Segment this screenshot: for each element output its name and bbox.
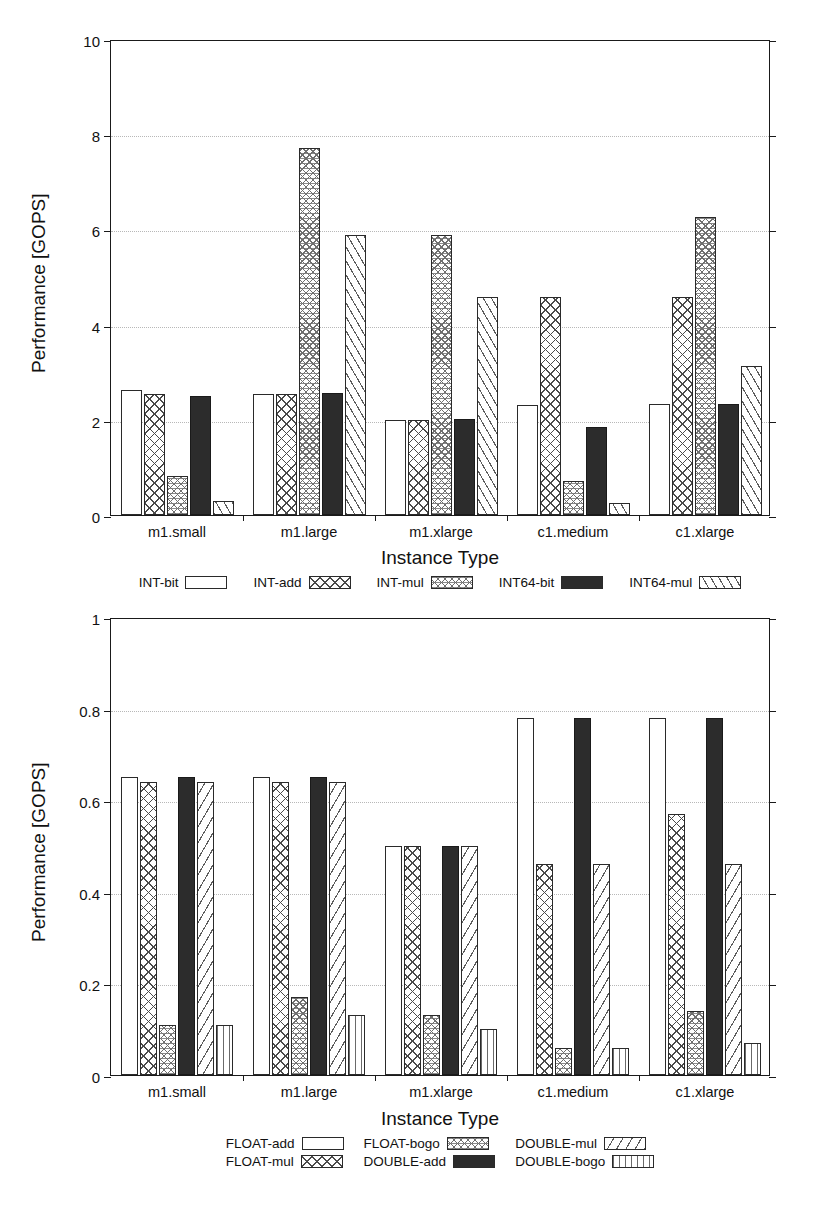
bar [706, 718, 723, 1075]
legend-label: DOUBLE-add [364, 1154, 447, 1169]
legend-swatch [431, 576, 473, 589]
y-axis-tick [769, 327, 776, 328]
legend-label: FLOAT-add [226, 1136, 295, 1151]
bar [213, 501, 234, 515]
legend-item-double-add[interactable]: DOUBLE-add [364, 1154, 496, 1169]
y-axis-tick-label: 0.6 [79, 794, 100, 811]
legend-item-double-bogo[interactable]: DOUBLE-bogo [515, 1154, 654, 1169]
legend-grid: FLOAT-addFLOAT-bogoDOUBLE-mulFLOAT-mulDO… [226, 1136, 654, 1169]
legend-item-float-bogo[interactable]: FLOAT-bogo [364, 1136, 496, 1151]
x-axis-tick [375, 515, 376, 521]
bar [190, 396, 211, 515]
legend-item-int64-bit[interactable]: INT64-bit [499, 575, 604, 590]
bar [744, 1043, 761, 1075]
x-axis-tick-label-m1.large: m1.large [281, 524, 337, 540]
bar [348, 1015, 365, 1075]
legend-item-int-bit[interactable]: INT-bit [139, 575, 228, 590]
bar [329, 782, 346, 1075]
y-axis-tick [769, 711, 776, 712]
y-axis-tick-label: 0.2 [79, 977, 100, 994]
y-axis-tick [104, 41, 111, 42]
legend-swatch [561, 576, 603, 589]
y-axis-tick [769, 1077, 776, 1078]
legend-swatch [309, 576, 351, 589]
bar [197, 782, 214, 1075]
y-axis-tick-label: 0.8 [79, 702, 100, 719]
legend-bottom: FLOAT-addFLOAT-bogoDOUBLE-mulFLOAT-mulDO… [110, 1136, 770, 1169]
legend-item-int-mul[interactable]: INT-mul [377, 575, 473, 590]
y-axis-tick-label: 10 [83, 33, 100, 50]
y-axis-tick [104, 894, 111, 895]
bar [586, 427, 607, 515]
y-axis-tick [104, 327, 111, 328]
legend-swatch [699, 576, 741, 589]
legend-swatch [453, 1155, 495, 1168]
bar [574, 718, 591, 1075]
bar [253, 777, 270, 1075]
bar [144, 394, 165, 515]
legend-swatch [302, 1137, 344, 1150]
bar [276, 394, 297, 515]
bar [159, 1025, 176, 1075]
x-axis-tick-label-m1.large: m1.large [281, 1084, 337, 1100]
y-axis-tick [769, 985, 776, 986]
y-axis-tick [104, 985, 111, 986]
bar [563, 481, 584, 515]
bar [272, 782, 289, 1075]
legend-swatch [447, 1137, 489, 1150]
y-axis-tick [769, 422, 776, 423]
x-axis-tick-label-c1.medium: c1.medium [538, 1084, 609, 1100]
legend-swatch [604, 1137, 646, 1150]
legend-item-float-mul[interactable]: FLOAT-mul [226, 1154, 344, 1169]
x-axis-tick [639, 515, 640, 521]
integer-performance-panel: Performance [GOPS] 0246810m1.smallm1.lar… [0, 0, 816, 600]
gridline [111, 136, 769, 137]
legend-label: FLOAT-bogo [364, 1136, 440, 1151]
y-axis-tick-label: 4 [92, 318, 100, 335]
y-axis-tick [104, 711, 111, 712]
bar [540, 297, 561, 515]
y-axis-tick [104, 136, 111, 137]
bar [612, 1048, 629, 1075]
x-axis-tick-label-m1.small: m1.small [148, 1084, 206, 1100]
x-axis-tick [243, 1075, 244, 1081]
legend-item-double-mul[interactable]: DOUBLE-mul [515, 1136, 654, 1151]
legend-label: INT64-mul [629, 575, 692, 590]
bar [385, 846, 402, 1075]
legend-swatch [612, 1155, 654, 1168]
bar [291, 997, 308, 1075]
bar [687, 1011, 704, 1075]
legend-item-float-add[interactable]: FLOAT-add [226, 1136, 344, 1151]
bar [609, 503, 630, 515]
bar [167, 476, 188, 516]
bar [718, 404, 739, 515]
x-axis-title-top: Instance Type [110, 547, 770, 569]
x-axis-tick [243, 515, 244, 521]
y-axis-tick [104, 231, 111, 232]
bar [408, 420, 429, 515]
bar [555, 1048, 572, 1075]
legend-item-int64-mul[interactable]: INT64-mul [629, 575, 741, 590]
legend-label: INT-mul [377, 575, 424, 590]
plot-area-bottom: 00.20.40.60.81m1.smallm1.largem1.xlargec… [110, 618, 770, 1076]
y-axis-tick [104, 1077, 111, 1078]
y-axis-tick-label: 0.4 [79, 885, 100, 902]
bar [178, 777, 195, 1075]
legend-row: INT-bitINT-addINT-mulINT64-bitINT64-mul [139, 575, 742, 590]
bar [517, 718, 534, 1075]
bar [477, 297, 498, 515]
x-axis-tick-label-c1.medium: c1.medium [538, 524, 609, 540]
legend-item-int-add[interactable]: INT-add [253, 575, 350, 590]
y-axis-title-bottom: Performance [GOPS] [28, 762, 50, 942]
plot-area-top: 0246810m1.smallm1.largem1.xlargec1.mediu… [110, 40, 770, 516]
y-axis-tick [769, 41, 776, 42]
bar [741, 366, 762, 515]
y-axis-tick [104, 517, 111, 518]
bar [140, 782, 157, 1075]
x-axis-tick [639, 1075, 640, 1081]
bar [480, 1029, 497, 1075]
bar [299, 148, 320, 515]
bar [310, 777, 327, 1075]
bar [536, 864, 553, 1075]
legend-swatch [301, 1155, 343, 1168]
